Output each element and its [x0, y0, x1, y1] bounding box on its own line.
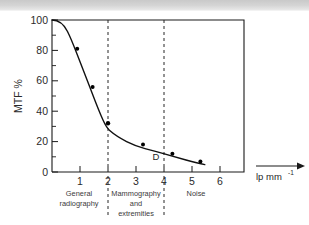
data-point-3 — [106, 121, 110, 125]
y-tick-label-20: 20 — [36, 135, 48, 147]
x-axis-ticks — [80, 166, 220, 172]
y-tick-label-40: 40 — [36, 105, 48, 117]
data-point-6 — [198, 159, 202, 163]
x-axis-unit-label: lp mm — [256, 171, 282, 182]
region-label-mammography-line2: and — [130, 199, 142, 208]
data-point-1 — [75, 47, 79, 51]
x-tick-label-3: 3 — [133, 175, 139, 187]
data-point-2 — [91, 85, 95, 89]
region-label-general-line1: General — [66, 189, 93, 198]
region-labels: General radiography Mammography and extr… — [59, 189, 205, 218]
annotation-d: D — [153, 151, 160, 162]
x-tick-label-1: 1 — [77, 175, 83, 187]
y-tick-label-80: 80 — [36, 44, 48, 56]
x-tick-label-6: 6 — [217, 175, 223, 187]
region-label-noise: Noise — [187, 189, 206, 198]
mtf-curve — [52, 20, 205, 165]
y-tick-label-60: 60 — [36, 74, 48, 86]
data-point-4 — [141, 143, 145, 147]
unit-arrow-head — [297, 162, 305, 169]
mtf-curve-group — [52, 20, 205, 165]
region-label-mammography-line1: Mammography — [111, 189, 161, 198]
x-unit-group: lp mm -1 — [256, 162, 305, 182]
y-tick-label-100: 100 — [30, 14, 48, 26]
region-label-general-line2: radiography — [59, 199, 98, 208]
y-tick-labels: 0 20 40 60 80 100 — [30, 14, 48, 178]
y-axis-title: MTF % — [12, 79, 24, 113]
y-axis-ticks — [52, 20, 58, 172]
y-tick-label-0: 0 — [42, 166, 48, 178]
data-markers — [75, 47, 202, 164]
figure-canvas: 0 20 40 60 80 100 MTF % 1 2 3 4 5 6 — [0, 0, 309, 225]
x-axis-unit-superscript: -1 — [288, 169, 294, 176]
region-label-mammography-line3: extremities — [118, 209, 154, 218]
mtf-chart: 0 20 40 60 80 100 MTF % 1 2 3 4 5 6 — [0, 0, 309, 225]
data-point-5 — [170, 152, 174, 156]
y-axis-title-group: MTF % — [12, 79, 24, 113]
x-tick-labels: 1 2 3 4 5 6 — [77, 175, 223, 187]
x-tick-label-5: 5 — [189, 175, 195, 187]
